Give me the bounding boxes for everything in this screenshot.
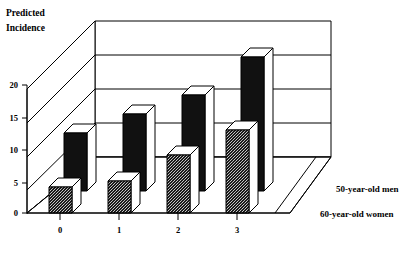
bar-women-cat-1[interactable] <box>108 172 140 213</box>
bar-face <box>49 187 72 213</box>
legend-label-women: 60-year-old women <box>320 209 393 219</box>
legend-label-men: 50-year-old men <box>336 184 398 194</box>
y-axis-title-line1: Predicted <box>6 8 46 18</box>
y-axis-title-line2: Incidence <box>6 23 45 33</box>
y-tick-label-5: 5 <box>14 178 18 188</box>
x-tick-label-3: 3 <box>235 225 239 235</box>
y-tick-label-10: 10 <box>10 145 19 155</box>
bar-women-cat-3[interactable] <box>226 121 258 213</box>
bar-side <box>87 124 96 191</box>
y-tick-label-15: 15 <box>10 113 19 123</box>
bar-face <box>108 181 131 213</box>
x-tick-label-1: 1 <box>117 225 121 235</box>
bar-side <box>264 48 273 191</box>
bar-face <box>167 155 190 213</box>
x-tick-label-2: 2 <box>176 225 180 235</box>
bar-women-cat-2[interactable] <box>167 146 199 213</box>
y-tick-label-0: 0 <box>14 208 18 218</box>
y-tick-label-20: 20 <box>10 80 19 90</box>
bar-side <box>249 121 258 213</box>
bar-side <box>146 105 155 191</box>
y-axis: 20 15 10 5 0 <box>10 80 28 218</box>
y-axis-title: Predicted Incidence <box>6 8 46 33</box>
bar-women-cat-0[interactable] <box>49 178 81 213</box>
bar-face <box>226 130 249 213</box>
predicted-incidence-3d-bar-chart: 20 15 10 5 0 Predicted Incidence <box>0 0 402 260</box>
x-tick-label-0: 0 <box>58 225 62 235</box>
bar-side <box>205 86 214 191</box>
x-axis: 0 1 2 3 <box>27 213 290 235</box>
chart-container: 20 15 10 5 0 Predicted Incidence <box>0 0 402 260</box>
bar-side <box>190 146 199 213</box>
